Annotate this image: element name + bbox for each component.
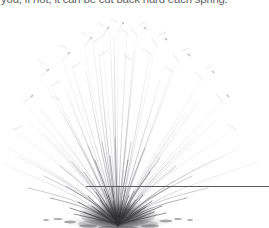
grass-photograph (0, 8, 269, 228)
caption-text: you, if not, it can be cut back hard eac… (1, 0, 228, 5)
scanned-page: you, if not, it can be cut back hard eac… (0, 0, 269, 228)
pruning-cut-guide-line (86, 186, 269, 187)
grass-illustration (0, 8, 269, 228)
